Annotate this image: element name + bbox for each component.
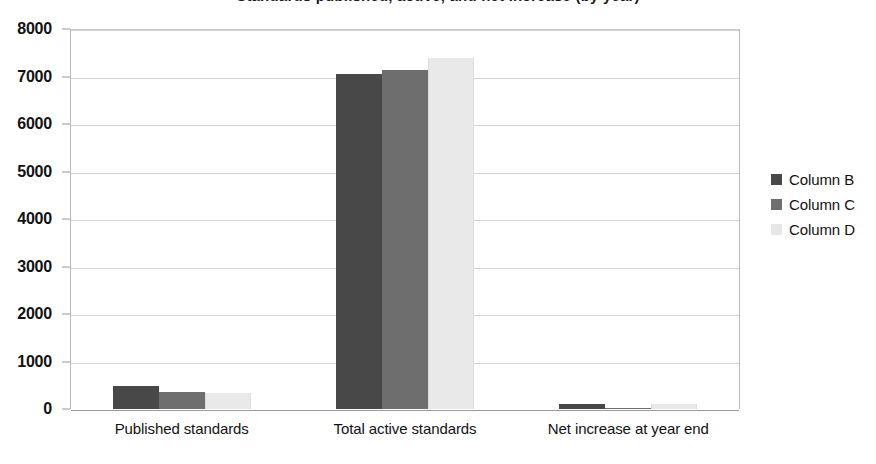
legend-swatch-series-b [771,174,782,185]
bar [336,74,382,409]
y-axis: 010002000300040005000600070008000 [0,29,62,409]
chart-title: Standards published, active, and net inc… [0,0,876,7]
x-tick-label: Total active standards [334,420,477,437]
legend-swatch-series-c [771,199,782,210]
bar-group [559,29,697,409]
y-tick-label: 1000 [17,353,52,371]
y-tick-mark [62,219,70,220]
y-tick-mark [62,124,70,125]
legend-item[interactable]: Column C [771,192,876,217]
y-tick-label: 7000 [17,68,52,86]
bar [559,404,605,409]
y-tick-mark [62,266,70,267]
bar [651,404,697,409]
y-tick-label: 6000 [17,115,52,133]
y-tick-mark [62,314,70,315]
legend-label: Column C [789,196,855,213]
x-tick-label: Net increase at year end [548,420,709,437]
y-tick-label: 2000 [17,305,52,323]
y-tick-mark [62,76,70,77]
bar-chart: Standards published, active, and net inc… [0,0,876,464]
y-tick-mark [62,409,70,410]
gridline-0 [71,410,739,411]
bar-group [336,29,474,409]
legend-item[interactable]: Column D [771,217,876,242]
y-tick-label: 4000 [17,210,52,228]
y-tick-label: 3000 [17,258,52,276]
legend-swatch-series-d [771,224,782,235]
legend-label: Column D [789,221,855,238]
bar [382,70,428,409]
bars-layer [70,29,740,409]
legend-label: Column B [789,171,854,188]
bar [113,386,159,409]
legend-item[interactable]: Column B [771,167,876,192]
y-tick-label: 8000 [17,20,52,38]
bar-group [113,29,251,409]
y-tick-label: 0 [43,400,52,418]
y-tick-mark [62,171,70,172]
bar [428,58,474,410]
x-axis: Published standardsTotal active standard… [70,420,740,448]
bar [205,393,251,409]
bar [605,408,651,409]
chart-legend: Column BColumn CColumn D [771,167,876,242]
x-tick-label: Published standards [115,420,249,437]
bar [159,392,205,409]
y-tick-mark [62,361,70,362]
y-tick-label: 5000 [17,163,52,181]
y-tick-mark [62,29,70,30]
